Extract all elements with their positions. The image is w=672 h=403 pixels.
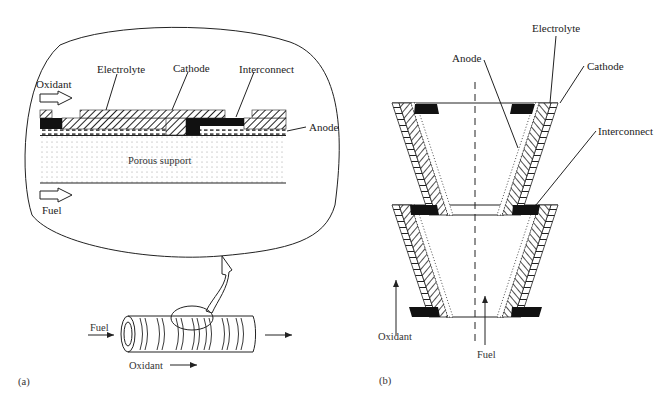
inset-label-interconnect: Interconnect <box>239 63 294 75</box>
interconnect-block <box>40 118 62 129</box>
label-interconnect: Interconnect <box>598 125 653 137</box>
inset-label-oxidant: Oxidant <box>36 78 71 90</box>
panel-b: Anode Electrolyte Cathode Interconnect O… <box>378 22 653 387</box>
interconnect-block <box>510 104 535 114</box>
label-anode: Anode <box>452 52 481 64</box>
oxidant-flow-arrow-icon <box>40 91 72 105</box>
sofc-diagram: Oxidant Fuel Porous support Electrolyte … <box>0 0 672 403</box>
interconnect-block <box>512 205 540 215</box>
tube-label-fuel: Fuel <box>90 322 109 333</box>
inset-label-cathode: Cathode <box>173 62 210 74</box>
panel-b-tag: (b) <box>379 375 392 387</box>
interconnect-block <box>414 104 439 114</box>
label-fuel: Fuel <box>477 349 496 360</box>
label-electrolyte: Electrolyte <box>532 22 580 34</box>
label-oxidant: Oxidant <box>378 331 412 342</box>
magnify-pointer-arrow-icon <box>206 256 232 313</box>
tube-label-oxidant: Oxidant <box>129 360 163 371</box>
panel-a-tag: (a) <box>18 376 30 388</box>
interconnect-block <box>410 205 439 215</box>
inset-label-fuel: Fuel <box>42 204 62 216</box>
fuel-flow-arrow-icon <box>40 188 72 202</box>
anode-layer <box>40 129 166 135</box>
panel-a: Oxidant Fuel Porous support Electrolyte … <box>18 27 339 388</box>
inset-label-porous-support: Porous support <box>128 155 191 166</box>
label-cathode: Cathode <box>587 60 624 72</box>
interconnect-block <box>409 307 440 317</box>
cathode-layer <box>80 110 225 118</box>
interconnect-block <box>511 307 542 317</box>
tubular-cell <box>121 306 256 352</box>
inset-label-electrolyte: Electrolyte <box>97 63 145 75</box>
inset-label-anode: Anode <box>309 121 338 133</box>
